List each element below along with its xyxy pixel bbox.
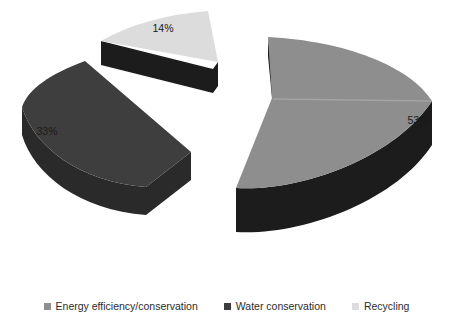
pie-chart-figure: 14% 33% 53% (0, 0, 453, 333)
legend-item-energy-efficiency[interactable]: Energy efficiency/conservation (44, 300, 198, 312)
legend-swatch-icon-energy-efficiency (44, 303, 51, 310)
pie-slice-energy-efficiency[interactable]: 53% (236, 37, 432, 232)
pie-slice-water-value-label: 33% (36, 125, 57, 137)
legend-label-water-conservation: Water conservation (236, 300, 326, 312)
legend-swatch-icon-water-conservation (224, 303, 231, 310)
legend-label-recycling: Recycling (364, 300, 410, 312)
chart-legend: Energy efficiency/conservation Water con… (0, 300, 453, 326)
pie-slice-recycling-side-edge (213, 62, 218, 93)
pie-slice-water-conservation[interactable]: 33% (22, 61, 191, 215)
legend-item-recycling[interactable]: Recycling (352, 300, 410, 312)
pie-slice-recycling[interactable]: 14% (101, 11, 218, 93)
legend-swatch-icon-recycling (352, 303, 359, 310)
pie-slice-energy-value-label: 53% (407, 114, 428, 126)
pie-slice-recycling-value-label: 14% (152, 22, 173, 34)
pie-chart-svg: 14% 33% 53% (0, 0, 453, 292)
legend-item-water-conservation[interactable]: Water conservation (224, 300, 326, 312)
pie-chart-canvas: 14% 33% 53% (0, 0, 453, 292)
legend-label-energy-efficiency: Energy efficiency/conservation (56, 300, 198, 312)
